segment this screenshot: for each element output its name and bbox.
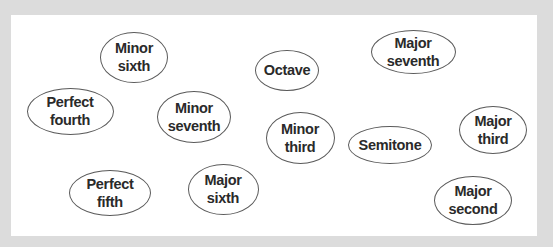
bubble-perfect-fifth: Perfect fifth <box>69 170 151 216</box>
bubble-label: Semitone <box>359 136 422 154</box>
bubble-minor-sixth: Minor sixth <box>100 32 168 83</box>
bubble-minor-third: Minor third <box>266 112 335 164</box>
bubble-label: Perfect fifth <box>86 175 133 211</box>
bubble-major-seventh: Major seventh <box>371 30 456 74</box>
bubble-octave: Octave <box>255 50 319 91</box>
bubble-label: Octave <box>264 61 311 79</box>
bubble-label: Major third <box>474 112 511 148</box>
bubble-label: Major sixth <box>204 171 241 207</box>
bubble-major-second: Major second <box>434 176 512 225</box>
bubble-minor-seventh: Minor seventh <box>157 91 231 143</box>
bubble-label: Minor seventh <box>168 99 221 135</box>
bubble-label: Major second <box>449 182 498 218</box>
bubble-label: Major seventh <box>387 34 440 70</box>
bubble-label: Perfect fourth <box>46 93 93 129</box>
bubble-label: Minor third <box>281 120 319 156</box>
bubble-major-sixth: Major sixth <box>188 164 259 215</box>
bubble-perfect-fourth: Perfect fourth <box>27 88 114 135</box>
bubble-label: Minor sixth <box>115 39 153 75</box>
bubble-semitone: Semitone <box>348 126 432 164</box>
bubble-major-third: Major third <box>459 106 527 154</box>
